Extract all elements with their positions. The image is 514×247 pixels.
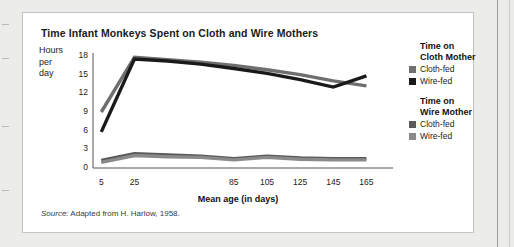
series-line	[101, 156, 366, 163]
legend-swatch-icon	[409, 66, 416, 73]
legend-swatch-icon	[409, 121, 416, 128]
legend-swatch-icon	[409, 133, 416, 140]
legend-item[interactable]: Cloth-fed	[409, 119, 495, 130]
figure-card: Time Infant Monkeys Spent on Cloth and W…	[22, 12, 474, 233]
scan-artifact-tick	[2, 24, 9, 25]
legend-heading-line-2: Wire Mother	[420, 107, 495, 118]
legend-item-label: Wire-fed	[420, 131, 452, 142]
chart-legend: Time onCloth MotherCloth-fedWire-fedTime…	[409, 41, 495, 151]
legend-group-heading: Time onWire Mother	[420, 96, 495, 118]
legend-swatch-icon	[409, 78, 416, 85]
legend-item[interactable]: Wire-fed	[409, 131, 495, 142]
legend-heading-line-1: Time on	[420, 96, 495, 107]
legend-group: Time onWire MotherCloth-fedWire-fed	[409, 96, 495, 142]
legend-group-heading: Time onCloth Mother	[420, 41, 495, 63]
legend-item[interactable]: Cloth-fed	[409, 64, 495, 75]
page-right-rule-outer	[509, 0, 510, 247]
legend-item-label: Wire-fed	[420, 76, 452, 87]
scan-artifact-tick	[2, 58, 9, 59]
legend-item-label: Cloth-fed	[420, 119, 455, 130]
legend-group: Time onCloth MotherCloth-fedWire-fed	[409, 41, 495, 87]
source-label: Source:	[41, 209, 69, 218]
scan-artifact-tick	[2, 126, 9, 127]
scan-artifact-tick	[2, 190, 9, 191]
legend-heading-line-1: Time on	[420, 41, 495, 52]
legend-item[interactable]: Wire-fed	[409, 76, 495, 87]
page-right-rule	[497, 0, 498, 247]
screenshot-root: Time Infant Monkeys Spent on Cloth and W…	[0, 0, 514, 247]
series-line	[101, 59, 366, 132]
source-note: Source: Adapted from H. Harlow, 1958.	[41, 209, 180, 218]
source-text: Adapted from H. Harlow, 1958.	[70, 209, 179, 218]
legend-item-label: Cloth-fed	[420, 64, 455, 75]
legend-heading-line-2: Cloth Mother	[420, 52, 495, 63]
x-axis-title: Mean age (in days)	[88, 194, 388, 204]
